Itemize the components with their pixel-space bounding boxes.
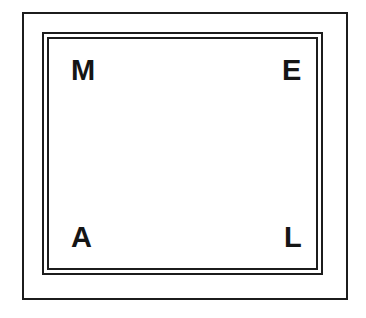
corner-label-bottom-left: A — [71, 223, 92, 252]
corner-label-top-right: E — [282, 56, 301, 85]
corner-label-top-left: M — [71, 56, 95, 85]
figure-canvas: M E A L — [0, 0, 366, 318]
corner-label-bottom-right: L — [284, 223, 302, 252]
